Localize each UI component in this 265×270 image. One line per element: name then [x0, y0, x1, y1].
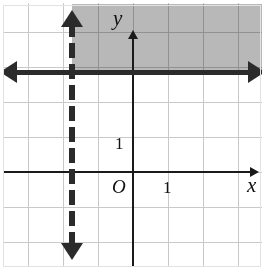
shaded-solution-region: [72, 4, 265, 75]
boundary-line-horizontal-solid: [14, 70, 251, 75]
y-axis-tick-label-1: 1: [115, 135, 124, 152]
grid-line-vertical: [63, 0, 64, 270]
boundary-arrow-down-icon: [61, 243, 83, 260]
x-axis-label: x: [247, 175, 256, 196]
boundary-arrow-up-icon: [61, 10, 83, 27]
y-axis-label: y: [113, 8, 122, 29]
origin-label: O: [112, 177, 126, 196]
grid-line-vertical: [28, 0, 29, 270]
coordinate-plane-figure: y x O 1 1: [0, 0, 265, 270]
boundary-line-vertical-dashed: [69, 22, 75, 247]
boundary-arrow-right-icon: [248, 61, 265, 83]
y-axis-arrow-icon: [128, 30, 138, 39]
boundary-arrow-left-icon: [0, 61, 17, 83]
x-axis-tick-label-1: 1: [163, 179, 172, 196]
x-axis: [4, 171, 252, 173]
